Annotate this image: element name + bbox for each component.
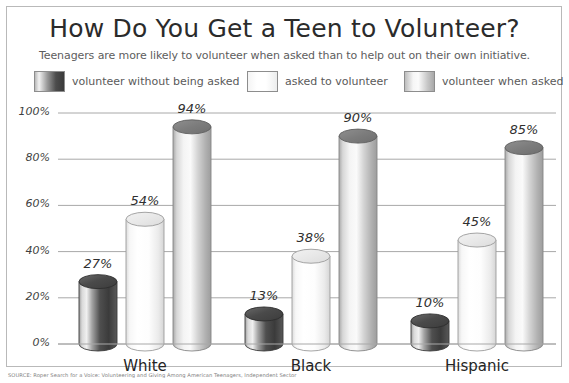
legend-swatch-icon (34, 71, 65, 92)
bar-value-label: 90% (328, 110, 388, 125)
legend-item-asked-to-volunteer: asked to volunteer (247, 70, 388, 92)
bar-value-label: 54% (115, 193, 175, 208)
y-axis-tick-label: 40% (4, 244, 50, 257)
chart-page: How Do You Get a Teen to Volunteer? Teen… (0, 0, 569, 383)
legend-item-volunteer-without-being-asked: volunteer without being asked (34, 70, 239, 92)
y-axis-tick-label: 80% (4, 151, 50, 164)
legend-swatch-icon (404, 71, 435, 92)
y-axis-tick-label: 60% (4, 197, 50, 210)
bar-value-label: 13% (234, 288, 294, 303)
legend-item-volunteer-when-asked: volunteer when asked (404, 70, 564, 92)
bar-value-label: 10% (400, 295, 460, 310)
legend-label: asked to volunteer (285, 75, 388, 88)
bar-value-label: 38% (281, 230, 341, 245)
legend-label: volunteer when asked (442, 75, 564, 88)
chart-subtitle: Teenagers are more likely to volunteer w… (0, 49, 569, 62)
chart-source-note: SOURCE: Roper Search for a Voice: Volunt… (8, 372, 296, 378)
chart-legend: volunteer without being asked asked to v… (34, 70, 539, 92)
bar-value-label: 27% (68, 256, 128, 271)
bar-value-label: 45% (447, 214, 507, 229)
y-axis-tick-label: 20% (4, 290, 50, 303)
bar-value-label: 94% (162, 101, 222, 116)
y-axis-tick-label: 100% (4, 105, 50, 118)
chart-title: How Do You Get a Teen to Volunteer? (0, 14, 569, 43)
bar-value-label: 85% (494, 122, 554, 137)
y-axis-tick-label: 0% (4, 336, 50, 349)
legend-swatch-icon (247, 71, 278, 92)
legend-label: volunteer without being asked (72, 75, 239, 88)
x-axis-category-label: Hispanic (417, 357, 537, 375)
